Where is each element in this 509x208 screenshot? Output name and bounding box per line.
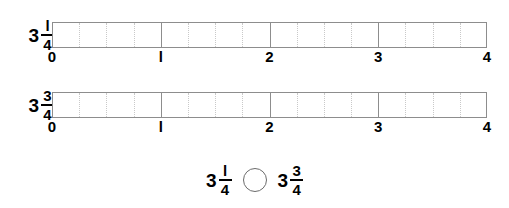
subdivision-tick bbox=[324, 23, 325, 47]
subdivision-tick bbox=[297, 23, 298, 47]
subdivision-tick bbox=[215, 23, 216, 47]
subdivision-tick bbox=[106, 23, 107, 47]
whole-part: 3 bbox=[28, 96, 41, 115]
subdivision-tick bbox=[79, 23, 80, 47]
comparison-operator-circle[interactable] bbox=[243, 168, 267, 192]
axis-tick-label: 0 bbox=[48, 119, 56, 134]
subdivision-tick bbox=[351, 23, 352, 47]
subdivision-tick bbox=[134, 93, 135, 117]
numerator: l bbox=[43, 18, 51, 34]
number-line-label: 3 l 4 bbox=[14, 22, 54, 48]
axis-tick-label: 4 bbox=[483, 49, 491, 64]
whole-part: 3 bbox=[206, 171, 219, 190]
axis-tick-label: 3 bbox=[374, 119, 382, 134]
axis-tick-label: l bbox=[159, 49, 163, 64]
whole-tick bbox=[161, 23, 162, 47]
subdivision-tick bbox=[79, 93, 80, 117]
subdivision-tick bbox=[460, 93, 461, 117]
comparison-left-value: 3 l 4 bbox=[206, 163, 232, 197]
subdivision-tick bbox=[433, 23, 434, 47]
subdivision-tick bbox=[351, 93, 352, 117]
whole-tick bbox=[378, 93, 379, 117]
numerator: l bbox=[221, 163, 229, 179]
whole-part: 3 bbox=[28, 26, 41, 45]
subdivision-tick bbox=[188, 23, 189, 47]
comparison-statement: 3 l 4 3 3 4 bbox=[0, 163, 509, 197]
subdivision-tick bbox=[324, 93, 325, 117]
axis-tick-label: 3 bbox=[374, 49, 382, 64]
axis-tick-label: 4 bbox=[483, 119, 491, 134]
subdivision-tick bbox=[242, 23, 243, 47]
mixed-number: 3 3 4 bbox=[28, 88, 54, 122]
whole-tick bbox=[270, 23, 271, 47]
axis-tick-label: l bbox=[159, 119, 163, 134]
whole-tick bbox=[270, 93, 271, 117]
number-line-label: 3 3 4 bbox=[14, 92, 54, 118]
number-line-bar: 0l234 bbox=[52, 22, 487, 48]
fraction: l 4 bbox=[219, 163, 232, 197]
axis-tick-label: 2 bbox=[265, 119, 273, 134]
denominator: 4 bbox=[219, 181, 231, 197]
subdivision-tick bbox=[134, 23, 135, 47]
subdivision-tick bbox=[405, 23, 406, 47]
denominator: 4 bbox=[290, 181, 302, 197]
whole-part: 3 bbox=[278, 171, 291, 190]
fraction: 3 4 bbox=[290, 163, 303, 197]
axis-tick-label: 0 bbox=[48, 49, 56, 64]
subdivision-tick bbox=[106, 93, 107, 117]
axis-tick-label: 2 bbox=[265, 49, 273, 64]
whole-tick bbox=[378, 23, 379, 47]
subdivision-tick bbox=[460, 23, 461, 47]
subdivision-tick bbox=[242, 93, 243, 117]
comparison-right-value: 3 3 4 bbox=[278, 163, 304, 197]
whole-tick bbox=[161, 93, 162, 117]
subdivision-tick bbox=[188, 93, 189, 117]
number-line-bar: 0l234 bbox=[52, 92, 487, 118]
subdivision-tick bbox=[297, 93, 298, 117]
numerator: 3 bbox=[290, 163, 302, 179]
subdivision-tick bbox=[433, 93, 434, 117]
subdivision-tick bbox=[405, 93, 406, 117]
mixed-number: 3 l 4 bbox=[28, 18, 54, 52]
subdivision-tick bbox=[215, 93, 216, 117]
